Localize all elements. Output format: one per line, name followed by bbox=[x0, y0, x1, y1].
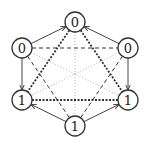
node-label: 0 bbox=[71, 15, 79, 30]
node-label: 1 bbox=[124, 93, 132, 108]
edge-bottom-lower-right bbox=[84, 104, 119, 121]
node-bottom: 1 bbox=[65, 116, 85, 136]
node-top: 0 bbox=[65, 12, 85, 32]
node-lower-right: 1 bbox=[118, 90, 138, 110]
edge-upper-right-top bbox=[84, 26, 119, 43]
edges bbox=[22, 26, 128, 121]
graph-canvas: 000111 bbox=[0, 0, 146, 146]
node-upper-right: 0 bbox=[118, 38, 138, 58]
graph-diagram: 000111 bbox=[0, 0, 146, 146]
node-label: 1 bbox=[71, 119, 79, 134]
node-label: 1 bbox=[18, 93, 26, 108]
node-lower-left: 1 bbox=[12, 90, 32, 110]
node-label: 0 bbox=[18, 41, 26, 56]
edge-bottom-lower-left bbox=[31, 104, 66, 121]
node-label: 0 bbox=[124, 41, 132, 56]
node-upper-left: 0 bbox=[12, 38, 32, 58]
edge-upper-left-top bbox=[31, 26, 66, 43]
